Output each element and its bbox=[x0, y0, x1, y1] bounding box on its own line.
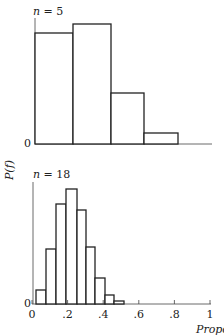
x-tick-label: .4 bbox=[98, 308, 109, 321]
bottom-histogram: 0.2.4.6.81 n = 18 0 bbox=[24, 168, 214, 321]
chart-figure: n = 5 0 P(f) 0.2.4.6.81 n = 18 0 Proport… bbox=[0, 0, 224, 336]
y-axis-label: P(f) bbox=[3, 160, 16, 181]
x-axis-label: Proportion bbox=[195, 323, 224, 336]
top-bar bbox=[144, 133, 178, 144]
bottom-bar bbox=[56, 204, 66, 304]
top-zero-label: 0 bbox=[24, 137, 31, 150]
top-histogram: n = 5 0 bbox=[24, 5, 212, 150]
x-tick-label: .6 bbox=[134, 308, 145, 321]
bottom-bar bbox=[114, 301, 124, 304]
x-tick-label: .2 bbox=[62, 308, 73, 321]
x-tick-label: 1 bbox=[207, 308, 214, 321]
bottom-bar bbox=[46, 249, 56, 304]
top-bar bbox=[73, 24, 111, 144]
bottom-bar bbox=[105, 295, 114, 304]
top-n-label: n = 5 bbox=[33, 5, 63, 18]
bottom-n-label: n = 18 bbox=[33, 168, 70, 181]
bottom-bar bbox=[36, 290, 46, 304]
top-bar bbox=[111, 93, 144, 144]
bottom-bar bbox=[77, 210, 86, 304]
x-tick-label: .8 bbox=[169, 308, 180, 321]
bottom-zero-label: 0 bbox=[24, 297, 31, 310]
top-bar bbox=[35, 33, 73, 144]
bottom-bar bbox=[66, 189, 77, 304]
bottom-bar bbox=[86, 247, 95, 304]
